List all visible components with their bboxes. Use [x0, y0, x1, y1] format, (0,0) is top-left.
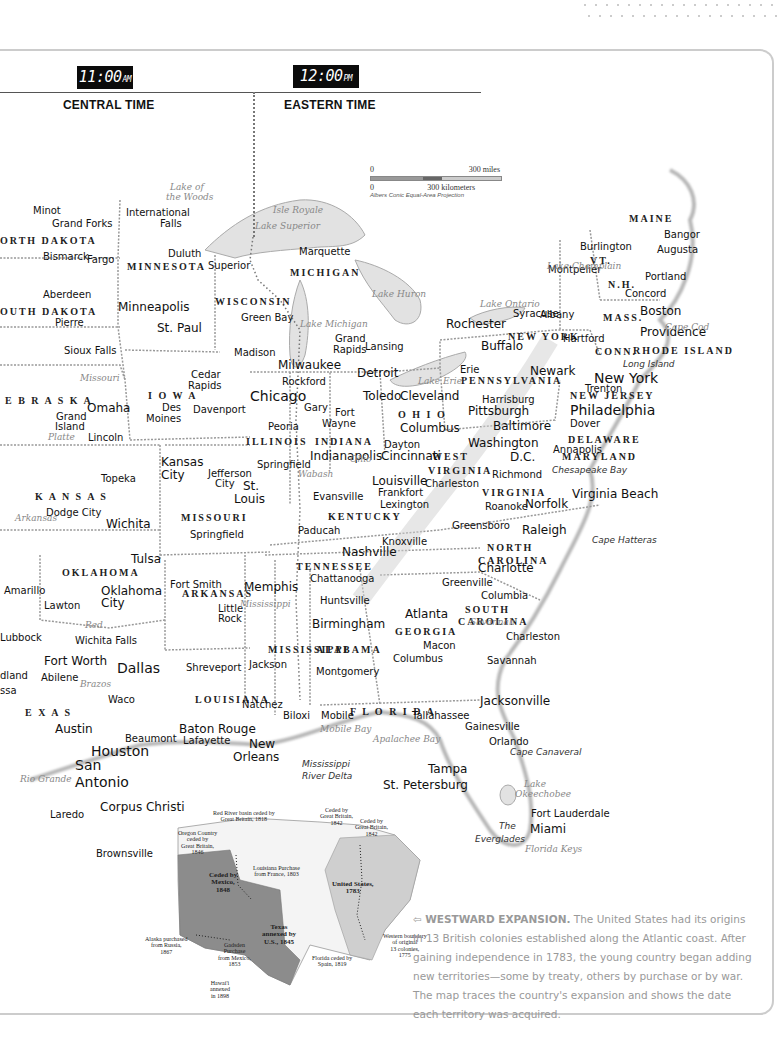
city-label: Washington — [468, 437, 539, 449]
city-label: Falls — [160, 219, 182, 229]
city-label: Pierre — [55, 318, 84, 328]
city-label: City — [215, 479, 235, 489]
city-label: Waco — [108, 695, 135, 705]
city-label: Amarillo — [4, 586, 45, 596]
city-label: Shreveport — [186, 663, 241, 673]
city-label: St. — [243, 480, 259, 492]
city-label: Topeka — [101, 474, 136, 484]
city-label: Atlanta — [405, 608, 448, 620]
state-label: MISSOURI — [181, 513, 248, 523]
central-time-clock: 11:00AM — [77, 66, 133, 89]
city-label: Marquette — [299, 247, 351, 257]
city-label: Rapids — [333, 345, 367, 355]
city-label: Portland — [645, 272, 686, 282]
city-label: Hartford — [563, 334, 605, 344]
city-label: Peoria — [268, 422, 299, 432]
city-label: Wichita Falls — [75, 636, 137, 646]
water-label: Lake of — [170, 183, 204, 192]
city-label: Gary — [304, 403, 328, 413]
city-label: Cincinnati — [381, 450, 441, 462]
city-label: Detroit — [357, 367, 398, 379]
city-label: Corpus Christi — [100, 801, 185, 813]
city-label: Laredo — [50, 810, 84, 820]
feature-label: Everglades — [475, 835, 525, 844]
city-label: Madison — [234, 348, 276, 358]
water-label: Brazos — [80, 680, 111, 689]
city-label: City — [101, 597, 125, 609]
city-label: Abilene — [41, 673, 78, 683]
city-label: Springfield — [190, 530, 244, 540]
time-zone-divider — [253, 92, 255, 237]
caption-title: WESTWARD EXPANSION. — [425, 913, 570, 925]
city-label: Natchez — [242, 700, 283, 710]
city-label: Tallahassee — [412, 711, 469, 721]
city-label: Moines — [146, 414, 181, 424]
city-label: Kansas — [161, 456, 203, 468]
city-label: Greenville — [442, 578, 493, 588]
city-label: Biloxi — [283, 711, 310, 721]
city-label: Fargo — [87, 255, 114, 265]
central-clock-ampm: AM — [123, 75, 132, 84]
city-label: Burlington — [580, 242, 632, 252]
state-label: E B R A S K A — [5, 396, 93, 406]
water-label: Arkansas — [15, 514, 57, 523]
inset-label: Red River basin ceded by Great Britain, … — [213, 810, 275, 823]
state-label: ORTH DAKOTA — [0, 236, 97, 246]
city-label: Louisville — [372, 475, 428, 487]
city-label: Raleigh — [522, 524, 567, 536]
city-label: Minneapolis — [118, 301, 190, 313]
city-label: Chattanooga — [310, 574, 374, 584]
city-label: San — [75, 758, 101, 772]
time-zone-rule — [0, 92, 481, 93]
city-label: Columbia — [481, 591, 528, 601]
city-label: Fort — [335, 408, 355, 418]
city-label: Orleans — [233, 751, 279, 763]
scale-km-zero: 0 — [370, 183, 374, 192]
city-label: Buffalo — [481, 340, 523, 352]
map-scale: 0 300 miles 0 300 kilometers Albers Coni… — [370, 165, 530, 198]
city-label: Dallas — [117, 661, 160, 675]
state-label: NORTH — [487, 543, 533, 553]
state-label: ARKANSAS — [182, 589, 253, 599]
water-label: the Woods — [166, 193, 213, 202]
city-label: Antonio — [75, 775, 129, 789]
city-label: Wayne — [322, 419, 356, 429]
water-label: Okeechobee — [515, 790, 571, 799]
water-label: Lake Erie — [418, 377, 462, 386]
inset-label: United States, 1783 — [332, 881, 374, 896]
city-label: Cedar — [191, 370, 221, 380]
eastern-time-clock: 12:00PM — [293, 65, 359, 88]
inset-label: Ceded by Great Britain, 1842 — [320, 807, 353, 826]
city-label: Chicago — [250, 389, 306, 403]
feature-label: Mississippi — [302, 760, 350, 769]
state-label: ILLINOIS — [246, 437, 308, 447]
feature-label: Cape Hatteras — [592, 536, 657, 545]
city-label: Lawton — [44, 601, 80, 611]
city-label: Rockford — [282, 377, 326, 387]
city-label: Bangor — [664, 230, 700, 240]
city-label: Augusta — [657, 245, 698, 255]
state-label: WISCONSIN — [215, 297, 291, 307]
city-label: Minot — [33, 206, 61, 216]
state-label: KENTUCKY — [328, 512, 402, 522]
city-label: Frankfort — [378, 488, 423, 498]
state-label: TENNESSEE — [296, 562, 373, 572]
water-label: Wabash — [298, 470, 333, 479]
city-label: Tampa — [428, 763, 467, 775]
city-label: City — [161, 469, 185, 481]
city-label: Tulsa — [131, 553, 161, 565]
state-label: OUTH DAKOTA — [0, 307, 97, 317]
water-label: Missouri — [80, 374, 120, 383]
water-label: Mississippi — [240, 600, 291, 609]
water-label: Lake Ontario — [480, 300, 540, 309]
city-label: Louis — [234, 493, 265, 505]
city-label: dland — [0, 671, 28, 681]
city-label: Trenton — [585, 384, 622, 394]
state-label: OKLAHOMA — [62, 568, 140, 578]
city-label: Duluth — [168, 249, 201, 259]
city-label: Gainesville — [465, 722, 520, 732]
city-label: Baton Rouge — [179, 723, 256, 735]
water-label: Lake Superior — [255, 222, 320, 231]
inset-label: Ceded by Mexico, 1848 — [209, 872, 237, 894]
city-label: Rapids — [188, 381, 222, 391]
